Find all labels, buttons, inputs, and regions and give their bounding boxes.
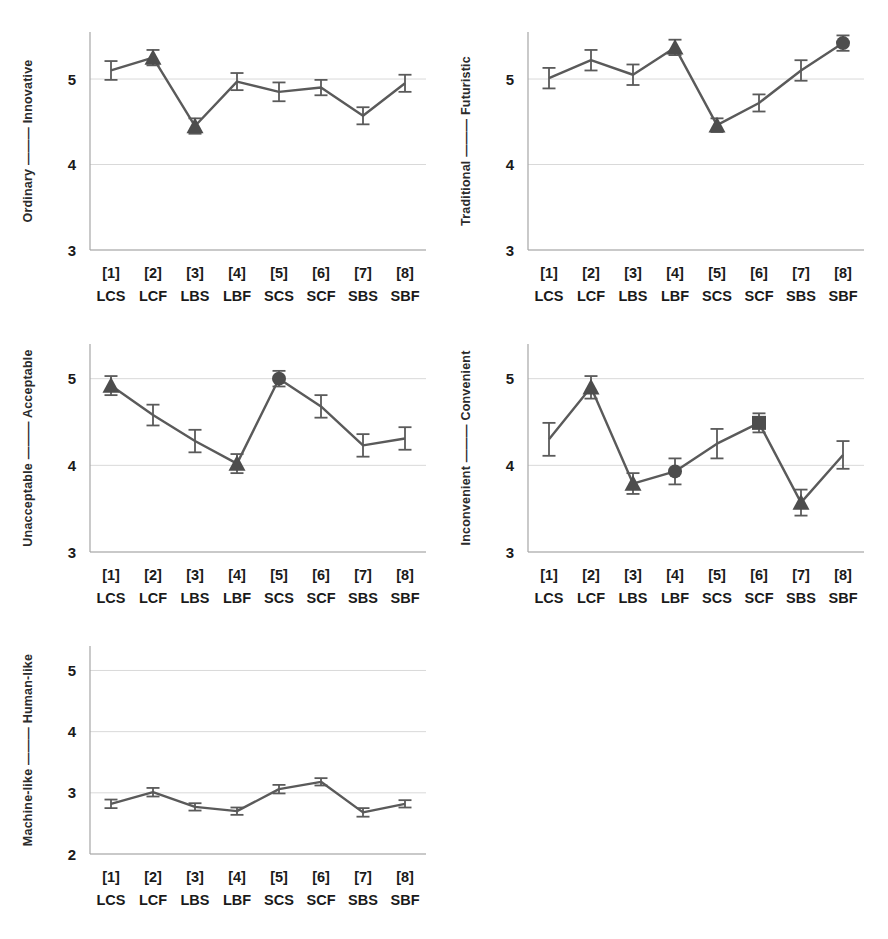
x-axis-code-label: SCS xyxy=(702,288,732,304)
data-point xyxy=(585,50,598,71)
x-axis-code-label: LBS xyxy=(619,590,648,606)
y-axis-title: Inconvenient ——— Convenient xyxy=(459,350,473,546)
y-axis-tick-label: 3 xyxy=(68,544,76,561)
x-axis-code-label: LCS xyxy=(535,590,564,606)
x-axis-code-label: LCF xyxy=(577,590,605,606)
data-point xyxy=(229,454,246,473)
x-axis-code-label: SCF xyxy=(307,288,336,304)
x-axis-index-label: [5] xyxy=(270,869,288,885)
x-axis-code-label: SCF xyxy=(307,892,336,908)
x-axis-index-label: [3] xyxy=(186,869,204,885)
x-axis-code-label: SBS xyxy=(348,892,378,908)
x-axis-index-label: [4] xyxy=(228,265,246,281)
x-axis-index-label: [1] xyxy=(102,869,120,885)
y-axis-tick-label: 4 xyxy=(68,723,77,740)
x-axis-code-label: SBS xyxy=(348,288,378,304)
x-axis-index-label: [7] xyxy=(354,265,372,281)
x-axis-code-label: SCS xyxy=(264,590,294,606)
chart-panel-ordinary-innovative: 345Ordinary ——— Innovative[1]LCS[2]LCF[3… xyxy=(14,18,444,328)
y-axis-tick-label: 3 xyxy=(68,784,76,801)
data-point xyxy=(105,61,118,80)
x-axis-index-label: [6] xyxy=(312,869,330,885)
marker-triangle xyxy=(667,39,684,55)
x-axis-code-label: LBF xyxy=(223,590,251,606)
x-axis-index-label: [4] xyxy=(666,265,684,281)
x-axis-code-label: SCF xyxy=(745,590,774,606)
y-axis-tick-label: 5 xyxy=(68,370,76,387)
marker-circle xyxy=(836,36,850,50)
data-point xyxy=(836,35,850,50)
data-point xyxy=(399,75,412,92)
data-point xyxy=(272,371,286,387)
x-axis-code-label: LBF xyxy=(661,288,689,304)
x-axis-code-label: LCF xyxy=(139,892,167,908)
x-axis-index-label: [2] xyxy=(582,265,600,281)
chart-panel-unacceptable-acceptable: 345Unacceptable ——— Acceptable[1]LCS[2]L… xyxy=(14,330,444,630)
x-axis-index-label: [8] xyxy=(834,567,852,583)
x-axis-code-label: LCS xyxy=(97,288,126,304)
x-axis-index-label: [8] xyxy=(396,869,414,885)
x-axis-code-label: SCS xyxy=(264,892,294,908)
y-axis-tick-label: 3 xyxy=(506,544,514,561)
x-axis-index-label: [2] xyxy=(144,567,162,583)
data-point xyxy=(837,441,850,469)
x-axis-index-label: [7] xyxy=(354,869,372,885)
x-axis-index-label: [6] xyxy=(750,567,768,583)
x-axis-code-label: LBS xyxy=(181,892,210,908)
marker-triangle xyxy=(103,377,120,393)
x-axis-code-label: SBF xyxy=(829,590,858,606)
x-axis-index-label: [3] xyxy=(624,567,642,583)
x-axis-index-label: [7] xyxy=(354,567,372,583)
x-axis-index-label: [2] xyxy=(144,869,162,885)
x-axis-index-label: [8] xyxy=(834,265,852,281)
x-axis-code-label: LBF xyxy=(223,892,251,908)
plot-area: 345Unacceptable ——— Acceptable[1]LCS[2]L… xyxy=(14,330,444,630)
x-axis-code-label: LCF xyxy=(139,590,167,606)
x-axis-code-label: SBF xyxy=(391,288,420,304)
data-point xyxy=(668,458,682,484)
marker-triangle xyxy=(145,49,162,65)
series-line xyxy=(549,43,843,125)
data-point xyxy=(105,800,118,809)
x-axis-index-label: [6] xyxy=(312,567,330,583)
y-axis-title: Machine-like ——— Human-like xyxy=(21,654,35,846)
x-axis-index-label: [1] xyxy=(540,567,558,583)
data-point xyxy=(795,60,808,81)
data-point xyxy=(147,788,160,797)
data-point xyxy=(711,429,724,458)
y-axis-tick-label: 5 xyxy=(68,71,76,88)
x-axis-index-label: [8] xyxy=(396,265,414,281)
x-axis-index-label: [5] xyxy=(270,265,288,281)
x-axis-code-label: SCF xyxy=(307,590,336,606)
data-point xyxy=(147,405,160,426)
marker-triangle xyxy=(583,379,600,395)
marker-square xyxy=(752,416,766,430)
y-axis-tick-label: 5 xyxy=(506,370,514,387)
x-axis-code-label: SBS xyxy=(786,590,816,606)
data-point xyxy=(627,64,640,85)
y-axis-tick-label: 5 xyxy=(68,662,76,679)
x-axis-code-label: SBF xyxy=(829,288,858,304)
x-axis-code-label: SCF xyxy=(745,288,774,304)
x-axis-index-label: [6] xyxy=(312,265,330,281)
x-axis-code-label: LCS xyxy=(535,288,564,304)
data-point xyxy=(189,430,202,453)
x-axis-index-label: [1] xyxy=(102,265,120,281)
plot-area: 2345Machine-like ——— Human-like[1]LCS[2]… xyxy=(14,632,444,932)
x-axis-code-label: LCS xyxy=(97,590,126,606)
marker-triangle xyxy=(229,455,246,471)
x-axis-index-label: [1] xyxy=(102,567,120,583)
y-axis-tick-label: 3 xyxy=(506,242,514,259)
x-axis-code-label: SCS xyxy=(264,288,294,304)
x-axis-index-label: [3] xyxy=(624,265,642,281)
x-axis-index-label: [5] xyxy=(270,567,288,583)
chart-panel-inconvenient-convenient: 345Inconvenient ——— Convenient[1]LCS[2]L… xyxy=(452,330,882,630)
chart-panel-traditional-futuristic: 345Traditional ——— Futuristic[1]LCS[2]LC… xyxy=(452,18,882,328)
x-axis-code-label: SBS xyxy=(786,288,816,304)
y-axis-title: Traditional ——— Futuristic xyxy=(459,56,473,226)
plot-area: 345Traditional ——— Futuristic[1]LCS[2]LC… xyxy=(452,18,882,328)
data-point xyxy=(625,473,642,494)
x-axis-index-label: [4] xyxy=(666,567,684,583)
x-axis-code-label: LBF xyxy=(223,288,251,304)
y-axis-tick-label: 4 xyxy=(68,457,77,474)
